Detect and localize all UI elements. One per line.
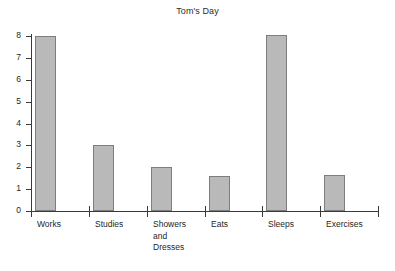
x-axis-label: Works	[37, 219, 95, 231]
y-tick-label: 2	[3, 162, 21, 171]
y-tick-label: 3	[3, 140, 21, 149]
x-axis-label: Showers and Dresses	[153, 219, 211, 254]
x-tick-mark	[31, 206, 32, 217]
x-tick-mark	[262, 206, 263, 217]
bar	[266, 35, 287, 211]
y-tick-mark	[26, 36, 31, 37]
bar	[209, 176, 230, 211]
bar-chart-figure: Tom's Day 012345678 WorksStudiesShowers …	[0, 0, 395, 271]
y-tick-label: 5	[3, 97, 21, 106]
x-tick-mark	[205, 206, 206, 217]
chart-title: Tom's Day	[0, 6, 395, 16]
y-tick-mark	[26, 167, 31, 168]
x-tick-mark	[378, 206, 379, 217]
bar	[151, 167, 172, 211]
y-tick-mark	[26, 124, 31, 125]
y-tick-label: 6	[3, 75, 21, 84]
x-axis-label: Exercises	[326, 219, 384, 231]
y-tick-label: 4	[3, 119, 21, 128]
y-tick-label: 8	[3, 31, 21, 40]
bar	[35, 36, 56, 211]
y-axis-line	[31, 34, 32, 212]
y-tick-label: 0	[3, 206, 21, 215]
bar	[93, 145, 114, 211]
x-tick-mark	[147, 206, 148, 217]
y-tick-mark	[26, 58, 31, 59]
y-tick-mark	[26, 189, 31, 190]
y-tick-mark	[26, 80, 31, 81]
x-tick-mark	[320, 206, 321, 217]
y-tick-label: 7	[3, 53, 21, 62]
x-axis-label: Sleeps	[268, 219, 326, 231]
x-axis-label: Studies	[95, 219, 153, 231]
x-tick-mark	[89, 206, 90, 217]
x-axis-label: Eats	[211, 219, 269, 231]
y-tick-mark	[26, 102, 31, 103]
bar	[324, 175, 345, 211]
y-tick-label: 1	[3, 184, 21, 193]
y-tick-mark	[26, 145, 31, 146]
